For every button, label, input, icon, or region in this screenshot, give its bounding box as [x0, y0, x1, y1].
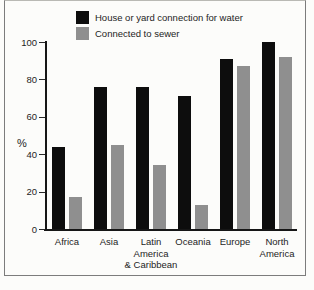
y-axis-line	[45, 41, 47, 230]
bar-sewer-africa	[69, 197, 82, 229]
y-tick	[39, 229, 45, 230]
y-tick	[39, 154, 45, 155]
figure-canvas: House or yard connection for water Conne…	[0, 0, 314, 290]
bar-water-africa	[52, 147, 65, 229]
bar-water-latin	[136, 87, 149, 229]
bar-sewer-oceania	[195, 205, 208, 229]
x-axis-line	[44, 229, 297, 231]
y-tick-label: 80	[15, 74, 37, 85]
bar-sewer-north	[279, 57, 292, 229]
y-tick-label: 100	[15, 37, 37, 48]
bar-sewer-europe	[237, 66, 250, 229]
bar-water-north	[262, 42, 275, 229]
y-tick	[39, 79, 45, 80]
bar-sewer-asia	[111, 145, 124, 229]
y-tick-label: 0	[15, 224, 37, 235]
y-tick	[39, 192, 45, 193]
y-tick-label: 40	[15, 149, 37, 160]
y-tick-label: 60	[15, 111, 37, 122]
bar-water-asia	[94, 87, 107, 229]
bar-water-europe	[220, 59, 233, 229]
bar-water-oceania	[178, 96, 191, 229]
bar-sewer-latin	[153, 165, 166, 229]
x-category-label-north: North America	[245, 236, 309, 259]
y-tick	[39, 117, 45, 118]
plot-area: 020406080100AfricaAsiaLatin America & Ca…	[0, 0, 314, 290]
y-tick	[39, 42, 45, 43]
y-tick-label: 20	[15, 186, 37, 197]
